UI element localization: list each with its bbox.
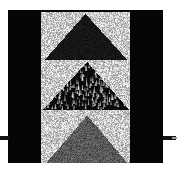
figure-root [0,0,177,170]
texture-panel-top [41,12,130,60]
texture-canvas-bottom [41,110,130,163]
axis-tick-left [0,136,9,140]
texture-canvas-top [41,12,130,60]
texture-panel-bottom [41,110,130,163]
texture-strip [41,12,130,163]
texture-panel-middle [41,60,130,110]
axis-tick-right-extension [172,137,177,139]
texture-canvas-middle [41,60,130,110]
